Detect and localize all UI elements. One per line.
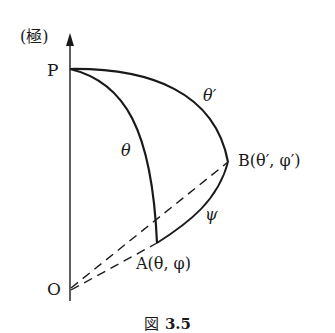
point-label-O: O — [47, 281, 61, 298]
arc-psi — [157, 162, 228, 243]
arc-theta-prime — [70, 69, 228, 162]
arc-label-theta: θ — [121, 143, 131, 159]
point-label-P: P — [47, 62, 58, 79]
axis-label-pole: (極) — [20, 29, 48, 45]
caption-number: 3.5 — [165, 315, 191, 333]
figure-caption: 図3.5 — [0, 312, 335, 333]
point-label-A: A(θ, φ) — [136, 256, 191, 272]
arc-theta — [70, 69, 157, 243]
arc-label-psi: ψ — [205, 207, 218, 223]
axis-arrow-icon — [66, 33, 74, 46]
arc-label-theta-prime: θ′ — [203, 88, 216, 104]
caption-prefix: 図 — [144, 315, 159, 333]
point-label-B: B(θ′, φ′) — [238, 153, 301, 169]
